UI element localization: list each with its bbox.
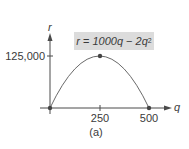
figure-caption: (a) bbox=[86, 126, 106, 138]
revenue-parabola-figure: r q 125,000 250 500 r = 1000q − 2q 2 (a) bbox=[0, 0, 189, 149]
equation-label: r = 1000q − 2q 2 bbox=[74, 32, 154, 50]
point-500 bbox=[147, 106, 151, 110]
y-axis-label: r bbox=[48, 21, 53, 33]
point-origin bbox=[48, 106, 52, 110]
x-axis-arrow-icon bbox=[164, 106, 172, 111]
x-tick-label-250: 250 bbox=[91, 112, 109, 124]
x-tick-label-500: 500 bbox=[140, 112, 158, 124]
x-axis-label: q bbox=[174, 101, 181, 113]
y-tick-label-125000: 125,000 bbox=[5, 50, 45, 62]
y-axis-arrow-icon bbox=[48, 33, 53, 41]
revenue-curve bbox=[50, 56, 149, 108]
equation-equals: = bbox=[80, 35, 93, 47]
equation-term1: 1000q bbox=[92, 35, 123, 47]
point-vertex bbox=[98, 54, 102, 58]
equation-term2: 2q bbox=[136, 35, 148, 47]
equation-minus: − bbox=[123, 35, 136, 47]
